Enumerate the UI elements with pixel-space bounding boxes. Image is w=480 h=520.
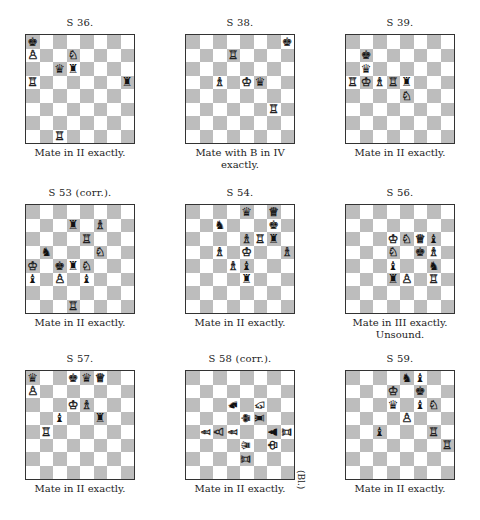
- square-a8: [26, 205, 40, 219]
- square-h3: [121, 103, 135, 117]
- white-rook-icon: ♖: [228, 49, 239, 61]
- white-bishop-icon: ♗: [81, 399, 92, 411]
- chess-board: ♛♚♛♕♙♔♗♝♜♖: [25, 370, 135, 480]
- square-f3: [254, 103, 268, 117]
- square-f7: ♚: [414, 385, 428, 399]
- square-c3: [373, 273, 387, 287]
- square-c2: [53, 452, 67, 466]
- square-h6: [441, 62, 455, 76]
- square-g6: ♘: [427, 398, 441, 412]
- square-h4: [441, 425, 455, 439]
- square-d1: [227, 300, 241, 314]
- square-f8: ♕: [94, 371, 108, 385]
- square-c6: [213, 398, 227, 412]
- square-b8: [360, 205, 374, 219]
- white-bishop-icon: ♗: [214, 76, 225, 88]
- white-king-icon: ♔: [241, 76, 252, 88]
- square-g6: [107, 398, 121, 412]
- square-e2: ♖: [240, 452, 254, 466]
- square-a2: [346, 286, 360, 300]
- square-g1: [267, 300, 281, 314]
- square-c2: [373, 452, 387, 466]
- square-c2: [373, 116, 387, 130]
- square-e3: ♜: [240, 273, 254, 287]
- square-e5: ♔: [240, 76, 254, 90]
- square-b6: ♛: [360, 62, 374, 76]
- square-f1: [254, 300, 268, 314]
- square-d1: [67, 466, 81, 480]
- square-d1: [387, 130, 401, 144]
- square-c4: [213, 89, 227, 103]
- square-a5: [26, 412, 40, 426]
- problem-title: S 36.: [0, 16, 160, 30]
- square-a1: [346, 130, 360, 144]
- square-b7: ♚: [360, 49, 374, 63]
- square-h3: [281, 439, 295, 453]
- square-h3: ♖: [441, 439, 455, 453]
- square-f3: [414, 273, 428, 287]
- square-d1: [387, 466, 401, 480]
- square-g4: ♟: [267, 425, 281, 439]
- square-b2: [200, 286, 214, 300]
- black-king-icon: ♚: [241, 413, 253, 424]
- square-e2: [240, 116, 254, 130]
- square-f3: [254, 439, 268, 453]
- square-h1: [121, 300, 135, 314]
- square-g5: [427, 412, 441, 426]
- square-c6: [53, 232, 67, 246]
- square-c6: [53, 398, 67, 412]
- white-rook-icon: ♖: [347, 76, 358, 88]
- square-c6: ♛: [53, 62, 67, 76]
- square-g5: [267, 76, 281, 90]
- square-c4: ♚: [53, 259, 67, 273]
- square-b5: [200, 246, 214, 260]
- square-h7: [441, 385, 455, 399]
- square-c7: [53, 49, 67, 63]
- square-h7: [281, 385, 295, 399]
- square-h8: ♚: [281, 35, 295, 49]
- square-g1: [427, 130, 441, 144]
- white-rook-icon: ♖: [268, 103, 279, 115]
- square-f8: [254, 35, 268, 49]
- black-bishop-icon: ♝: [241, 260, 252, 272]
- square-b3: [40, 273, 54, 287]
- square-h3: [441, 273, 455, 287]
- square-d8: ♚: [67, 371, 81, 385]
- square-h6: [441, 232, 455, 246]
- square-e3: ♝: [80, 273, 94, 287]
- square-a4: [186, 259, 200, 273]
- problem-title: S 39.: [320, 16, 480, 30]
- square-b3: [200, 103, 214, 117]
- square-c1: [213, 130, 227, 144]
- square-a3: [186, 273, 200, 287]
- square-h2: [281, 286, 295, 300]
- square-f7: ♗: [94, 219, 108, 233]
- square-a2: [26, 116, 40, 130]
- square-f4: [94, 425, 108, 439]
- white-rook-icon: ♖: [388, 76, 399, 88]
- square-a5: [346, 412, 360, 426]
- problem-s39: S 39. ♚♛♖♔♗♖♜♘ Mate in II exactly.: [320, 16, 480, 159]
- problem-s58: S 58 (corr.). ♞♘♚♜♗♙♗♟♖♛♔♖ Mate in II ex…: [160, 352, 320, 495]
- square-a4: [346, 259, 360, 273]
- square-g6: [107, 62, 121, 76]
- square-c5: ♗: [373, 76, 387, 90]
- square-a1: [186, 300, 200, 314]
- square-b2: [40, 116, 54, 130]
- square-c8: [373, 35, 387, 49]
- square-c4: ♙: [213, 425, 227, 439]
- caption-line: Mate in II exactly.: [320, 483, 480, 495]
- square-c5: ♗: [213, 246, 227, 260]
- square-b4: [40, 89, 54, 103]
- square-d1: [387, 300, 401, 314]
- square-e2: [80, 286, 94, 300]
- square-h4: [441, 259, 455, 273]
- black-rook-icon: ♜: [68, 260, 79, 272]
- white-king-icon: ♔: [241, 246, 252, 258]
- square-g7: [267, 385, 281, 399]
- square-d3: [227, 103, 241, 117]
- square-d8: [227, 371, 241, 385]
- square-e6: [80, 62, 94, 76]
- problem-s38: S 38. ♚♖♗♔♛♖ Mate with B in IVexactly.: [160, 16, 320, 171]
- square-h5: ♜: [121, 76, 135, 90]
